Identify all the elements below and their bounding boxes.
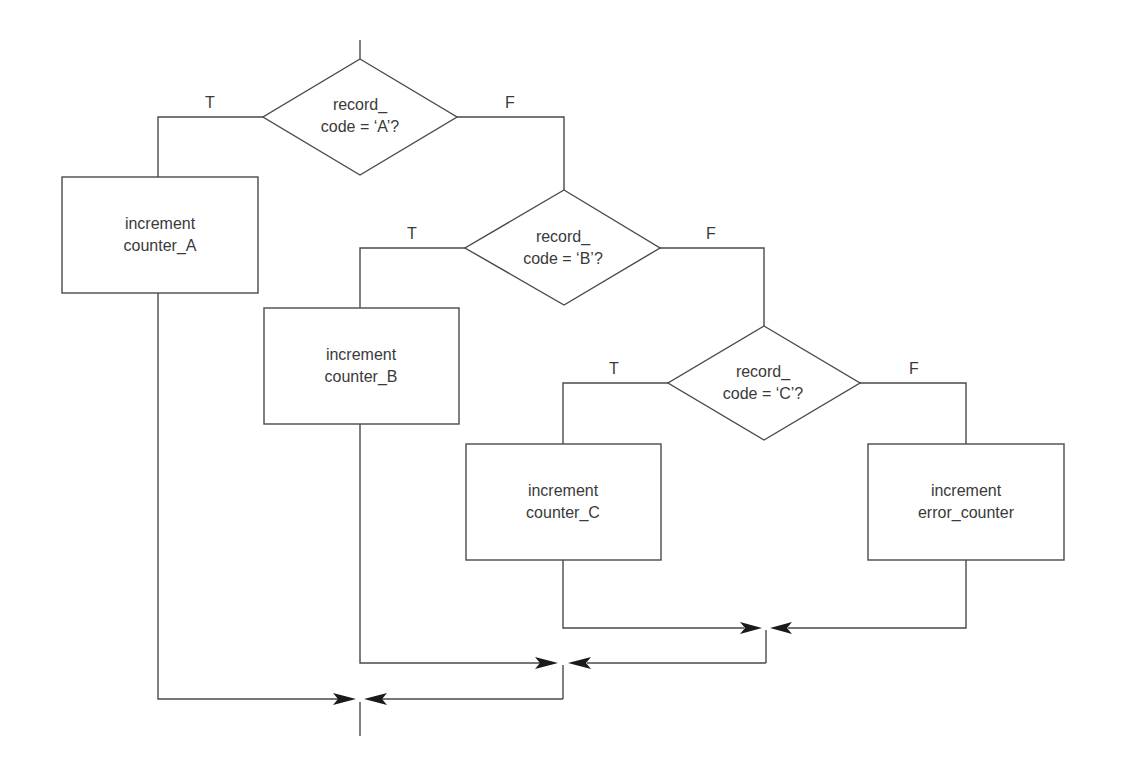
decision-b-false-connector	[660, 248, 764, 326]
decision-c-true-connector	[563, 383, 668, 444]
decision-b-true-connector	[360, 248, 465, 308]
process-error: increment error_counter	[868, 444, 1064, 560]
process-b-line2: counter_B	[325, 368, 398, 386]
decision-c-diamond	[668, 326, 860, 440]
decision-b: record_ code = ‘B’?	[465, 190, 660, 305]
process-a: increment counter_A	[62, 177, 258, 293]
decision-a-line2: code = ‘A’?	[321, 118, 400, 135]
process-a-line2: counter_A	[124, 237, 197, 255]
process-c-line1: increment	[528, 482, 599, 499]
process-c-box	[466, 444, 661, 560]
decision-b-line1: record_	[536, 228, 591, 246]
process-error-exit-connector	[788, 560, 966, 628]
process-b: increment counter_B	[264, 308, 459, 424]
decision-a-diamond	[263, 59, 457, 175]
process-b-box	[264, 308, 459, 424]
decision-c-false-connector	[860, 383, 966, 444]
decision-c: record_ code = ‘C’?	[668, 326, 860, 440]
process-a-box	[62, 177, 258, 293]
process-error-line1: increment	[931, 482, 1002, 499]
process-a-line1: increment	[125, 215, 196, 232]
decision-a-false-label: F	[505, 94, 515, 111]
decision-b-line2: code = ‘B’?	[523, 250, 603, 267]
decision-b-diamond	[465, 190, 660, 305]
flowchart-canvas: record_ code = ‘A’? T F increment counte…	[0, 0, 1121, 766]
process-c-exit-connector	[563, 560, 744, 628]
process-b-line1: increment	[326, 346, 397, 363]
decision-c-line2: code = ‘C’?	[723, 385, 804, 402]
decision-a-true-label: T	[205, 94, 215, 111]
decision-c-true-label: T	[609, 360, 619, 377]
decision-b-false-label: F	[706, 225, 716, 242]
decision-a-true-connector	[158, 117, 263, 177]
decision-a-line1: record_	[333, 96, 388, 114]
process-c: increment counter_C	[466, 444, 661, 560]
decision-c-line1: record_	[736, 363, 791, 381]
decision-a: record_ code = ‘A’?	[263, 59, 457, 175]
decision-a-false-connector	[457, 117, 564, 190]
process-error-box	[868, 444, 1064, 560]
process-c-line2: counter_C	[526, 504, 600, 522]
decision-c-false-label: F	[909, 360, 919, 377]
decision-b-true-label: T	[407, 225, 417, 242]
process-error-line2: error_counter	[918, 504, 1015, 522]
